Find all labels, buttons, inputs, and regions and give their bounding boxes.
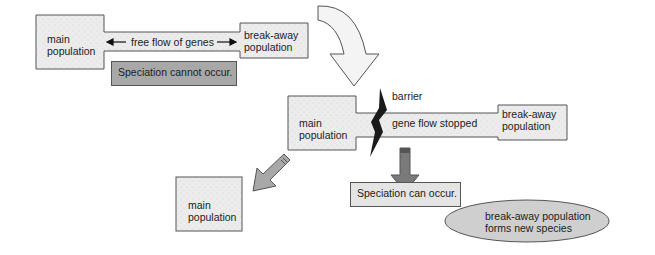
stage1-breakaway-label: break-away population: [244, 29, 298, 53]
stage1-flow-label: free flow of genes: [131, 36, 214, 48]
outcome-main-population-label: main population: [188, 199, 236, 223]
stage2-flow-label: gene flow stopped: [392, 117, 477, 129]
stage2-breakaway-label: break-away population: [502, 108, 556, 132]
stage2-main-population-label: main population: [299, 117, 347, 141]
stage1-main-population-label: main population: [47, 33, 95, 57]
barrier-label: barrier: [392, 90, 422, 102]
stage1-speciation-note: Speciation cannot occur.: [111, 61, 237, 86]
down-left-arrow-icon: [253, 154, 290, 191]
new-species-label: break-away population forms new species: [485, 210, 591, 234]
curved-arrow-icon: [318, 6, 379, 86]
stage2-speciation-note: Speciation can occur.: [350, 182, 461, 207]
